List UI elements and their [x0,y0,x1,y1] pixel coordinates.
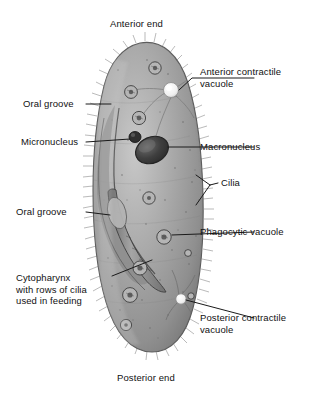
paramecium-figure: Anterior end Posterior end Anterior cont… [0,0,318,395]
leader-cilia-stem [210,183,218,185]
label-posterior-end: Posterior end [117,372,175,384]
label-oral-groove-lower: Oral groove [16,206,67,218]
label-cytopharynx: Cytopharynx with rows of cilia used in f… [16,272,87,307]
label-anterior-end: Anterior end [110,18,163,30]
label-oral-groove-upper: Oral groove [23,98,74,110]
label-anterior-contractile-vacuole: Anterior contractile vacuole [200,66,281,89]
label-phagocytic-vacuole: Phagocytic vacuole [200,226,284,238]
micronucleus [129,132,141,143]
label-macronucleus: Macronucleus [200,141,260,153]
paramecium-illustration [0,0,318,395]
label-cilia: Cilia [221,177,240,189]
label-posterior-contractile-vacuole: Posterior contractile vacuole [200,312,286,335]
label-micronucleus: Micronucleus [21,136,78,148]
